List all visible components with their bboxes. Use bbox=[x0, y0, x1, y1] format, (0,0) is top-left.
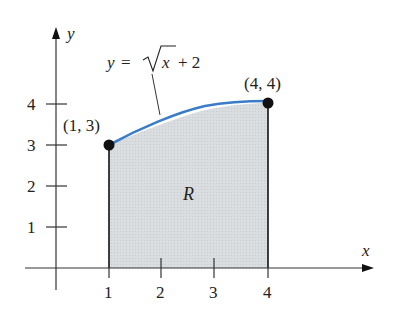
x-tick-label-1: 1 bbox=[104, 283, 113, 302]
y-tick-label-2: 2 bbox=[27, 177, 36, 196]
point-4-4 bbox=[263, 98, 274, 109]
y-tick-label-1: 1 bbox=[27, 218, 36, 237]
y-tick-label-3: 3 bbox=[27, 136, 36, 155]
svg-text:x: x bbox=[161, 53, 170, 72]
point-1-3 bbox=[104, 140, 115, 151]
x-tick-label-3: 3 bbox=[209, 283, 218, 302]
sqrt-sign-icon bbox=[143, 46, 176, 71]
y-axis-arrow-icon bbox=[52, 27, 60, 39]
y-tick-label-4: 4 bbox=[27, 95, 36, 114]
chart: 1 2 3 4 1 2 3 4 y x y = x + 2 (1, 3) (4,… bbox=[0, 0, 398, 316]
y-axis-label: y bbox=[65, 24, 75, 43]
curve-equation-label: y = x + 2 bbox=[105, 46, 200, 72]
x-tick-label-4: 4 bbox=[263, 283, 272, 302]
equation-leader-line bbox=[152, 74, 160, 115]
x-axis-arrow-icon bbox=[362, 264, 374, 272]
point-label-4-4: (4, 4) bbox=[244, 74, 281, 93]
svg-text:=: = bbox=[121, 53, 131, 72]
svg-text:+ 2: + 2 bbox=[178, 53, 200, 72]
svg-text:y: y bbox=[105, 53, 115, 72]
region-label: R bbox=[182, 184, 194, 204]
x-tick-label-2: 2 bbox=[156, 283, 165, 302]
x-axis-label: x bbox=[361, 241, 370, 260]
point-label-1-3: (1, 3) bbox=[63, 116, 100, 135]
